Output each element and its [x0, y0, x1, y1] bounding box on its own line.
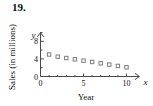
data-point-marker	[99, 62, 102, 65]
data-point-marker	[47, 53, 50, 56]
data-point-marker	[65, 56, 68, 59]
exercise-figure: 19. 0510048 xy Sales (in millions) Year	[0, 0, 153, 106]
data-point-marker	[116, 64, 119, 67]
x-axis-title: Year	[40, 92, 132, 102]
x-axis-variable-symbol: x	[142, 77, 147, 87]
data-markers-group	[47, 53, 128, 69]
x-axis-tick-label: 0	[39, 79, 43, 88]
axes-group	[37, 33, 139, 80]
data-point-marker	[73, 58, 76, 61]
x-axis-tick-label: 10	[123, 79, 131, 88]
data-point-marker	[125, 66, 128, 69]
y-axis-title: Sales (in millions)	[7, 9, 17, 105]
data-point-marker	[108, 63, 111, 66]
scatter-plot: 0510048 xy	[0, 0, 153, 106]
ticks-group	[41, 33, 127, 77]
y-axis-tick-label: 0	[34, 73, 38, 82]
y-axis-tick-label: 4	[34, 55, 38, 64]
data-point-marker	[82, 59, 85, 62]
y-axis-variable-symbol: y	[31, 30, 36, 40]
data-point-marker	[56, 55, 59, 58]
x-axis-tick-label: 5	[82, 79, 86, 88]
data-point-marker	[90, 60, 93, 63]
